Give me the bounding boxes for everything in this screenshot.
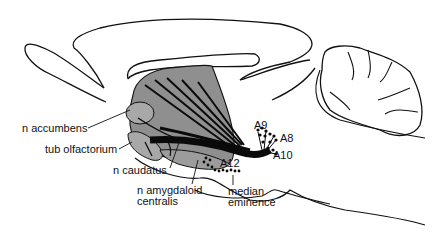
leader-n-accumbens <box>88 110 130 128</box>
cerebellum-outline <box>320 46 422 136</box>
fourth-ventricle-line <box>316 70 425 138</box>
cortex-outline <box>25 44 106 102</box>
label-median-line2: eminence <box>228 197 276 208</box>
label-tub-olfactorium: tub olfactorium <box>45 144 117 155</box>
label-n-amygdaloid-line2: centralis <box>137 196 178 207</box>
cerebellum-folia-2 <box>368 50 370 78</box>
label-a8: A8 <box>280 133 293 144</box>
label-a12: A12 <box>220 158 240 169</box>
leader-tub-olfactorium <box>119 142 132 149</box>
n-accumbens-region <box>126 102 154 124</box>
cerebellum-folia-3 <box>380 62 392 82</box>
brainstem-outline <box>240 60 310 80</box>
cerebellum-folia-1 <box>348 52 354 80</box>
label-n-caudatus: n caudatus <box>113 165 167 176</box>
cerebellum-folia-5 <box>385 110 418 114</box>
label-n-accumbens: n accumbens <box>22 123 87 134</box>
brain-diagram: n accumbens tub olfactorium n caudatus n… <box>0 0 441 239</box>
hippocampus-outline <box>272 68 315 100</box>
cerebellum-folia-6 <box>330 92 350 110</box>
label-a10: A10 <box>273 150 293 161</box>
cerebellum-folia-4 <box>378 88 410 100</box>
brain-outline-drawing <box>0 0 441 239</box>
label-a9: A9 <box>254 120 267 131</box>
